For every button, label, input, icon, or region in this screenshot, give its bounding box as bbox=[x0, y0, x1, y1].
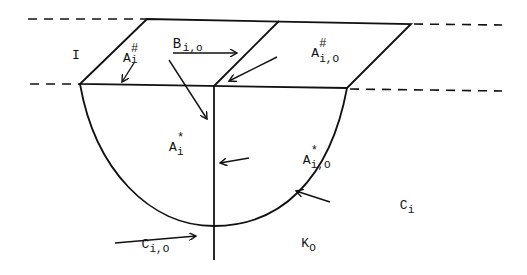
arrow-C-i bbox=[296, 191, 330, 202]
label-B-i0: Bi,o bbox=[173, 37, 181, 51]
label-A-i-hash: A#i bbox=[123, 52, 131, 65]
label-sup: # bbox=[319, 38, 326, 50]
arrow-A-i0-hash bbox=[229, 57, 277, 81]
label-base: C bbox=[400, 198, 408, 213]
label-base: A bbox=[123, 51, 131, 66]
label-A-i0-hash: A#i,O bbox=[311, 47, 319, 60]
label-sub: i bbox=[177, 147, 184, 158]
label-A-i0-star: A*i,O bbox=[303, 154, 311, 167]
arrow-A-i0-star bbox=[220, 158, 249, 163]
label-region-I: I bbox=[72, 49, 80, 62]
diagram-lines bbox=[0, 0, 527, 275]
label-base: B bbox=[173, 36, 181, 52]
label-K-0: KO bbox=[301, 237, 309, 250]
label-A-i-star: A*i bbox=[169, 141, 177, 154]
label-sub: i,O bbox=[319, 54, 339, 65]
label-C-i: Ci bbox=[400, 199, 408, 212]
label-sub: i bbox=[408, 205, 415, 216]
arrow-B-diagonal bbox=[169, 60, 207, 119]
diagram-canvas: I A#i Bi,o A#i,O A*i A*i,O Ci Ci,O KO bbox=[0, 0, 527, 275]
label-sub: i,O bbox=[311, 160, 331, 171]
label-base: A bbox=[169, 140, 177, 155]
label-base: K bbox=[301, 236, 309, 251]
label-sub: i,O bbox=[149, 244, 169, 255]
label-sup: * bbox=[311, 145, 318, 157]
label-base: A bbox=[303, 153, 311, 168]
label-sup: * bbox=[177, 132, 184, 144]
label-sub: O bbox=[309, 243, 316, 254]
label-base: C bbox=[141, 237, 149, 252]
label-C-i0: Ci,O bbox=[141, 238, 149, 251]
label-sub: i,o bbox=[183, 43, 203, 54]
label-sub: i bbox=[131, 55, 138, 66]
label-base: A bbox=[311, 46, 319, 61]
dashed-line-bottom-right bbox=[350, 89, 502, 91]
dashed-line-top-right bbox=[414, 24, 502, 25]
arrow-C-i0 bbox=[115, 236, 196, 243]
